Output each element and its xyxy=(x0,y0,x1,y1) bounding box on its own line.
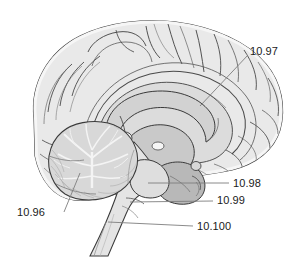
brain-anatomy-figure: 10.97 10.98 10.99 10.100 10.96 xyxy=(0,0,294,262)
callout-label-10-99: 10.99 xyxy=(217,194,245,206)
massa-intermedia xyxy=(152,142,164,150)
callout-label-10-96: 10.96 xyxy=(17,206,45,218)
callout-label-10-98: 10.98 xyxy=(233,177,261,189)
brain-diagram xyxy=(0,0,294,262)
callout-label-10-97: 10.97 xyxy=(250,45,278,57)
callout-label-10-100: 10.100 xyxy=(197,220,231,232)
leader-line-1099 xyxy=(130,201,213,202)
cerebellum xyxy=(49,120,138,200)
pineal-gland xyxy=(191,162,201,171)
